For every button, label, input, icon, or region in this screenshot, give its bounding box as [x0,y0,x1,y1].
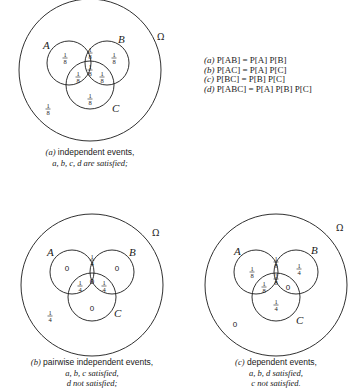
svg-text:8: 8 [262,287,265,294]
label-C-b: C [114,307,122,319]
region-A-only-a: 18 [63,51,68,66]
region-B-only-a: 18 [112,51,117,66]
svg-text:1: 1 [46,102,49,109]
circle-A-a [47,41,91,85]
svg-text:0: 0 [115,264,120,273]
region-outside-a: 18 [46,102,51,117]
svg-text:1: 1 [100,70,103,77]
circle-B-c [274,250,318,294]
region-BC-only-a: 18 [100,70,105,85]
caption-b: (b) pairwise independent events, a, b, c… [22,357,162,389]
svg-text:8: 8 [76,77,79,84]
svg-text:1: 1 [102,279,105,286]
equation-d: (d) P[ABC] = P[A] P[B] P[C] [204,85,312,95]
region-ABC-b: 0 [90,277,95,286]
region-B-only-c: 14 [297,262,302,277]
svg-text:8: 8 [112,58,115,65]
region-AB-only-b: 14 [90,253,95,268]
independence-conditions: (a) P[AB] = P[A] P[B] (b) P[AC] = P[A] P… [204,56,312,94]
omega-symbol-c: Ω [336,223,343,233]
svg-text:8: 8 [88,53,91,60]
svg-text:8: 8 [63,58,66,65]
svg-text:1: 1 [88,63,91,70]
region-C-only-a: 18 [88,92,93,107]
svg-text:0: 0 [90,277,95,286]
circle-B-b [90,250,134,294]
svg-text:1: 1 [78,279,81,286]
region-A-only-c: 18 [250,265,255,280]
svg-text:8: 8 [88,99,91,106]
region-BC-only-b: 14 [102,279,107,294]
svg-text:0: 0 [233,320,238,329]
region-A-only-b: 0 [65,264,70,273]
region-outside-c: 0 [233,320,238,329]
svg-text:1: 1 [88,92,91,99]
label-C-a: C [112,102,120,114]
region-AC-only-b: 14 [78,279,83,294]
label-C-c: C [296,314,304,326]
svg-text:8: 8 [88,70,91,77]
label-A-b: A [46,246,54,258]
svg-text:8: 8 [46,109,49,116]
svg-text:1: 1 [76,70,79,77]
svg-text:1: 1 [48,309,51,316]
label-A-a: A [42,39,50,51]
svg-text:4: 4 [297,269,301,276]
svg-text:8: 8 [274,279,277,286]
region-outside-b: 14 [48,309,53,324]
region-C-only-c: 14 [274,298,279,313]
label-B-b: B [129,246,136,258]
region-C-only-b: 0 [90,304,95,313]
svg-text:1: 1 [63,51,66,58]
svg-text:8: 8 [274,262,277,269]
label-B-c: B [311,244,318,256]
svg-text:0: 0 [65,264,70,273]
svg-text:1: 1 [274,272,277,279]
caption-a: (a) independent events, a, b, c, d are s… [20,147,160,168]
svg-text:0: 0 [90,304,95,313]
region-ABC-a: 18 [88,63,93,78]
svg-text:1: 1 [90,253,93,260]
circle-A-b [50,250,94,294]
svg-text:0: 0 [286,283,291,292]
svg-text:1: 1 [250,265,253,272]
svg-text:4: 4 [274,305,278,312]
region-B-only-b: 0 [115,264,120,273]
svg-text:1: 1 [274,255,277,262]
svg-text:4: 4 [102,286,106,293]
label-A-c: A [233,245,241,257]
omega-symbol-b: Ω [152,228,159,238]
svg-text:4: 4 [48,316,52,323]
svg-text:1: 1 [112,51,115,58]
caption-c: (c) dependent events, a, b, d satisfied,… [206,357,346,389]
svg-text:1: 1 [274,298,277,305]
svg-text:1: 1 [297,262,300,269]
svg-text:1: 1 [262,280,265,287]
svg-text:8: 8 [100,77,103,84]
svg-text:1: 1 [88,46,91,53]
svg-text:8: 8 [250,272,253,279]
omega-symbol-a: Ω [157,32,164,42]
svg-text:4: 4 [90,260,94,267]
label-B-a: B [118,33,125,45]
region-BC-only-c: 0 [286,283,291,292]
